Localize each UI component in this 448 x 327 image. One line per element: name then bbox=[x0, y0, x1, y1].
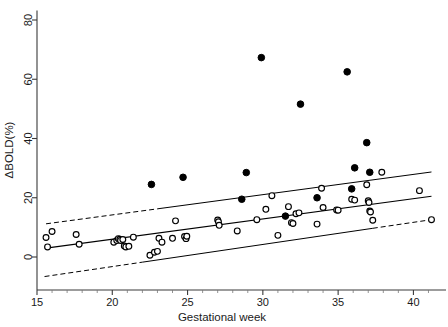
y-tick-label: 20 bbox=[22, 192, 34, 204]
data-point-filled bbox=[258, 54, 265, 61]
data-point-filled bbox=[180, 174, 187, 181]
data-point-open bbox=[170, 235, 176, 241]
data-point-open bbox=[159, 239, 165, 245]
data-point-open bbox=[366, 200, 372, 206]
data-point-open bbox=[364, 182, 370, 188]
data-point-open bbox=[290, 221, 296, 227]
data-point-open bbox=[155, 248, 161, 254]
data-point-open bbox=[184, 233, 190, 239]
x-tick-label: 40 bbox=[407, 296, 419, 308]
data-point-open bbox=[352, 197, 358, 203]
plot-background bbox=[0, 0, 448, 327]
scatter-plot-svg: 020406080152025303540 Gestational week Δ… bbox=[0, 0, 448, 327]
x-tick-label: 30 bbox=[257, 296, 269, 308]
data-point-open bbox=[130, 234, 136, 240]
data-point-open bbox=[49, 229, 55, 235]
data-point-filled bbox=[348, 186, 355, 193]
data-point-open bbox=[320, 205, 326, 211]
data-point-open bbox=[319, 185, 325, 191]
y-tick-label: 40 bbox=[22, 132, 34, 144]
y-tick-label: 60 bbox=[22, 73, 34, 85]
x-tick-label: 20 bbox=[106, 296, 118, 308]
data-point-open bbox=[370, 217, 376, 223]
data-point-open bbox=[263, 206, 269, 212]
data-point-open bbox=[417, 188, 423, 194]
y-tick-label: 80 bbox=[22, 14, 34, 26]
data-point-open bbox=[429, 217, 435, 223]
data-point-open bbox=[43, 235, 49, 241]
data-point-filled bbox=[351, 165, 358, 172]
data-point-open bbox=[73, 232, 79, 238]
data-point-open bbox=[120, 237, 126, 243]
data-point-open bbox=[286, 204, 292, 210]
x-tick-label: 15 bbox=[31, 296, 43, 308]
data-point-open bbox=[368, 209, 374, 215]
x-axis-title: Gestational week bbox=[178, 311, 266, 323]
data-point-open bbox=[269, 193, 275, 199]
data-point-filled bbox=[148, 181, 155, 188]
data-point-filled bbox=[282, 213, 289, 220]
data-point-open bbox=[314, 221, 320, 227]
data-point-open bbox=[76, 241, 82, 247]
data-point-open bbox=[173, 218, 179, 224]
y-tick-label: 0 bbox=[22, 254, 34, 260]
data-point-filled bbox=[366, 169, 373, 176]
data-point-open bbox=[254, 217, 260, 223]
data-point-filled bbox=[314, 194, 321, 201]
data-point-filled bbox=[238, 196, 245, 203]
data-point-open bbox=[234, 228, 240, 234]
data-point-open bbox=[45, 244, 51, 250]
data-point-open bbox=[275, 232, 281, 238]
x-tick-label: 35 bbox=[332, 296, 344, 308]
data-point-open bbox=[126, 243, 132, 249]
data-point-open bbox=[335, 207, 341, 213]
y-axis-title: ΔBOLD(%) bbox=[3, 121, 15, 178]
data-point-filled bbox=[363, 139, 370, 146]
data-point-filled bbox=[297, 101, 304, 108]
data-point-open bbox=[379, 169, 385, 175]
chart-figure: 020406080152025303540 Gestational week Δ… bbox=[0, 0, 448, 327]
data-point-filled bbox=[243, 169, 250, 176]
data-point-open bbox=[216, 222, 222, 228]
data-point-filled bbox=[344, 69, 351, 76]
x-tick-label: 25 bbox=[181, 296, 193, 308]
data-point-open bbox=[296, 210, 302, 216]
